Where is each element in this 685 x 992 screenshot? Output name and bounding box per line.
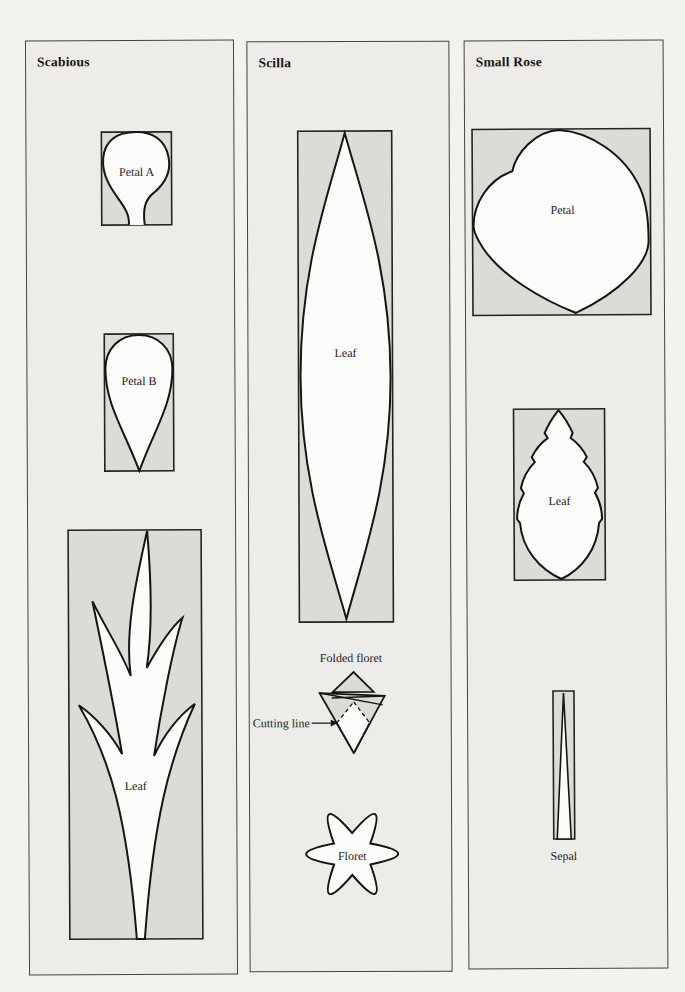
panel-title: Scilla (258, 55, 291, 71)
panel-scilla: Scilla Leaf Folded floret Cutting line F… (246, 41, 452, 973)
panel-title: Scabious (37, 54, 90, 70)
petal-b-label: Petal B (104, 374, 173, 388)
panel-scabious: Scabious Petal A Petal B Leaf (25, 40, 238, 976)
rose-petal-diagram (470, 127, 653, 318)
scabious-leaf-label: Leaf (69, 779, 202, 794)
rose-leaf-label: Leaf (514, 494, 605, 508)
scilla-leaf-diagram (296, 129, 396, 624)
cutting-line-label: Cutting line (253, 716, 310, 730)
rose-sepal-label: Sepal (524, 849, 604, 863)
panel-title: Small Rose (476, 54, 542, 70)
scabious-petal-b-diagram (102, 332, 176, 473)
scabious-leaf-diagram (66, 528, 205, 942)
petal-a-label: Petal A (102, 165, 172, 179)
floret-label: Floret (301, 849, 403, 863)
panel-small-rose: Small Rose Petal Leaf Sepal (464, 39, 669, 969)
rose-sepal-diagram (551, 689, 577, 841)
rose-petal-label: Petal (474, 203, 650, 218)
scilla-leaf-label: Leaf (298, 346, 392, 360)
folded-floret-diagram (299, 657, 419, 772)
fold-peak (333, 672, 374, 692)
